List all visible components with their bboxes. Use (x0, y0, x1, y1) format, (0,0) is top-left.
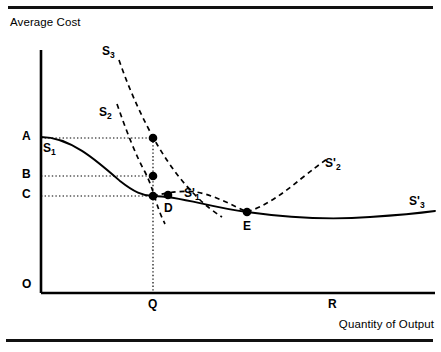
curve-label-s3-prime-base: S' (409, 194, 420, 208)
curve-label-s2-sub: 2 (107, 111, 112, 121)
x-tick-label-r: R (328, 299, 337, 310)
curve-label-s3-base: S (102, 44, 110, 58)
curve-label-s1-sub: 1 (51, 147, 56, 157)
y-tick-label-c: C (22, 189, 31, 200)
curve-s2 (117, 104, 165, 224)
point-e (243, 208, 252, 217)
curve-label-s2-prime: S'2 (325, 158, 341, 173)
y-tick-label-a: A (22, 131, 31, 142)
curve-label-s1-base: S (43, 141, 51, 155)
point-q-c (149, 192, 158, 201)
point-d (164, 191, 173, 200)
curve-s3-prime-envelope (41, 137, 435, 218)
curve-label-s1-prime-base: S' (184, 186, 195, 200)
curve-label-s1-prime-sub: 1 (195, 192, 200, 202)
curve-label-s2-prime-base: S' (325, 156, 336, 170)
point-label-d: D (164, 203, 173, 214)
curve-label-s2-prime-sub: 2 (336, 162, 341, 172)
chart-svg (0, 0, 441, 352)
origin-label: O (22, 279, 31, 290)
point-label-e: E (243, 221, 251, 232)
curve-label-s3: S3 (102, 46, 115, 61)
y-tick-label-b: B (22, 169, 31, 180)
point-q-b (149, 172, 158, 181)
figure-container: Average Cost Quantity of Output A B C O … (0, 0, 441, 352)
curve-label-s3-prime-sub: 3 (420, 200, 425, 210)
point-q-a (149, 134, 158, 143)
curve-label-s2: S2 (99, 107, 112, 122)
curve-label-s3-sub: 3 (110, 50, 115, 60)
x-tick-label-q: Q (148, 299, 157, 310)
curve-s2-prime (247, 159, 327, 212)
curve-label-s1-prime: S'1 (184, 188, 200, 203)
curve-label-s3-prime: S'3 (409, 196, 425, 211)
curve-label-s1: S1 (43, 143, 56, 158)
curve-label-s2-base: S (99, 105, 107, 119)
